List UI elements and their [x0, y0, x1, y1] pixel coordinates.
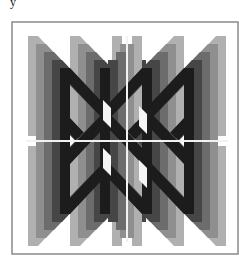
op-art-figure — [0, 0, 239, 256]
